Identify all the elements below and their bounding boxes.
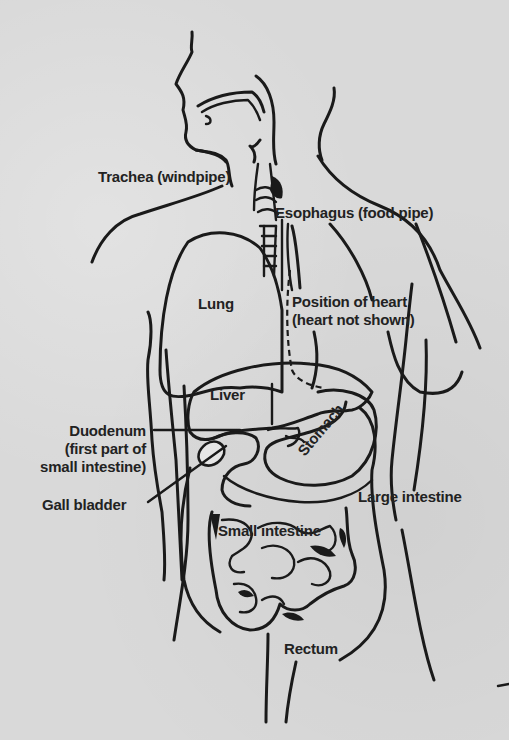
rectum-label: Rectum — [284, 640, 338, 657]
esophagus-label: Esophagus (food pipe) — [275, 204, 433, 221]
rectum — [266, 634, 268, 722]
right-lung-inner — [292, 226, 300, 288]
gall-bladder-label: Gall bladder — [42, 496, 126, 513]
duodenum-label-line1: Duodenum — [30, 422, 146, 439]
neck-back — [319, 88, 334, 160]
chin-neck — [196, 150, 226, 162]
small-intestine-label: Small intestine — [218, 522, 321, 539]
transverse-colon — [224, 476, 372, 502]
left-arm — [147, 312, 164, 580]
anatomy-drawing — [0, 0, 509, 740]
right-body-side — [414, 340, 426, 490]
digestive-system-diagram: Trachea (windpipe) Esophagus (food pipe)… — [0, 0, 509, 740]
right-lung-right — [416, 224, 456, 342]
right-lung-outer — [330, 224, 372, 300]
tongue-curl — [206, 116, 211, 124]
duodenum-label-line2: (first part of — [10, 440, 146, 457]
large-intestine-label: Large intestine — [358, 488, 462, 505]
face-profile — [176, 32, 232, 186]
right-lower-side — [402, 530, 434, 680]
epiglottis — [250, 140, 260, 162]
heart-position-label-line1: Position of heart — [292, 293, 407, 310]
rectum-right — [286, 662, 296, 722]
heart-position-label-line2: (heart not shown) — [292, 311, 414, 328]
right-lung-lower-1 — [312, 332, 317, 388]
page-edge-mark — [498, 684, 509, 686]
left-shoulder — [92, 186, 222, 262]
lung-label: Lung — [198, 295, 234, 312]
liver-label: Liver — [210, 386, 245, 403]
left-body-side — [166, 350, 182, 580]
trachea-label: Trachea (windpipe) — [98, 168, 230, 185]
duodenum-label-line3: small intestine) — [0, 458, 146, 475]
nasal-inner — [202, 100, 260, 120]
